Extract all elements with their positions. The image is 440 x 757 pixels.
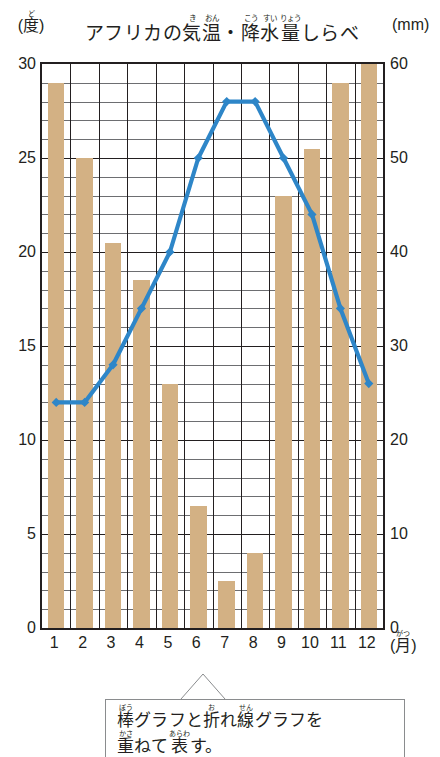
ruby-segment: りょう量: [280, 15, 301, 44]
y-left-tick-5: 5: [2, 526, 36, 542]
ruby-segment: せん線: [237, 704, 254, 730]
y-left-tick-15: 15: [2, 338, 36, 354]
x-tick-1: 1: [40, 635, 68, 651]
caption-line: かさ重 ねてあらわ表 す。: [117, 730, 397, 756]
x-tick-2: 2: [68, 635, 96, 651]
ruby-segment: ねて: [134, 730, 168, 756]
line-series-temperature: [42, 64, 387, 632]
ruby-segment: ぼう棒: [117, 704, 134, 730]
x-tick-5: 5: [154, 635, 182, 651]
x-tick-6: 6: [182, 635, 210, 651]
x-tick-12: 12: [353, 635, 381, 651]
y-left-tick-0: 0: [2, 620, 36, 636]
ruby-segment: グラフを: [255, 704, 324, 730]
y-right-tick-20: 20: [390, 432, 430, 448]
x-tick-10: 10: [296, 635, 324, 651]
x-tick-8: 8: [239, 635, 267, 651]
ruby-segment: ・: [221, 15, 241, 44]
x-tick-4: 4: [125, 635, 153, 651]
ruby-segment: しらべ: [301, 15, 360, 44]
y-left-tick-25: 25: [2, 150, 36, 166]
ruby-segment: お折: [203, 704, 220, 730]
y-right-tick-50: 50: [390, 150, 430, 166]
y-left-tick-20: 20: [2, 244, 36, 260]
ruby-segment: かさ重: [117, 730, 134, 756]
ruby-segment: こう降: [241, 15, 261, 44]
ruby-segment: おん温: [202, 15, 222, 44]
caption-line: ぼう棒 グラフとお折 れせん線 グラフを: [117, 704, 397, 730]
x-tick-9: 9: [267, 635, 295, 651]
temperature-line: [56, 102, 369, 403]
y-left-tick-30: 30: [2, 56, 36, 72]
ruby-segment: あらわ表: [169, 730, 190, 756]
ruby-segment: れ: [220, 704, 237, 730]
x-axis-unit-label: がつ(月): [390, 630, 417, 655]
ruby-segment: がつ(月): [390, 630, 417, 655]
page-title: アフリカのき気おん温 ・こう降すい水りょう量 しらべ: [62, 8, 382, 44]
x-tick-7: 7: [211, 635, 239, 651]
y-right-tick-30: 30: [390, 338, 430, 354]
ruby-segment: すい水: [260, 15, 280, 44]
y-right-tick-10: 10: [390, 526, 430, 542]
ruby-segment: アフリカの: [85, 15, 183, 44]
data-point-1: [52, 398, 61, 407]
x-tick-11: 11: [324, 635, 352, 651]
x-tick-3: 3: [97, 635, 125, 651]
y-left-tick-10: 10: [2, 432, 36, 448]
y-right-tick-60: 60: [390, 56, 430, 72]
caption-text: ぼう棒 グラフとお折 れせん線 グラフをかさ重 ねてあらわ表 す。: [117, 704, 397, 756]
y-right-tick-40: 40: [390, 244, 430, 260]
ruby-segment: き気: [182, 15, 202, 44]
x-axis-ticks: 123456789101112: [40, 635, 385, 659]
caption-pointer-icon: [180, 672, 226, 700]
y-axis-left-ticks: 302520151050: [0, 0, 36, 757]
ruby-segment: グラフと: [134, 704, 203, 730]
plot-area: [40, 62, 385, 630]
ruby-segment: す。: [190, 730, 222, 756]
